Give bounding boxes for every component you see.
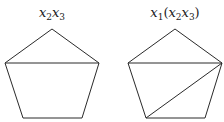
left-pentagon <box>5 29 99 118</box>
left-pentagon-label: x2x3 <box>39 6 65 22</box>
diagonal-line <box>146 63 222 118</box>
right-pentagon-label: x1(x2x3) <box>150 6 199 22</box>
